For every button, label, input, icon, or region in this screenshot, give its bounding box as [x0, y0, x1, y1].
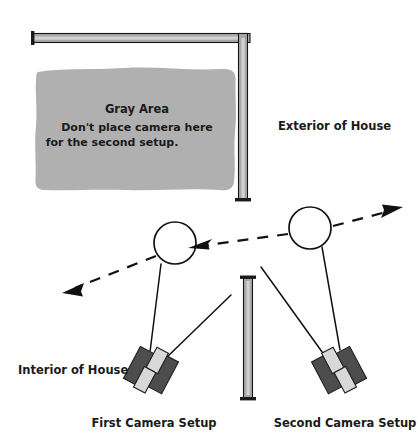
subject-right-circle — [289, 207, 331, 249]
floor-plan-svg: Gray Area Don't place camera here for th… — [0, 0, 418, 446]
sight-line-first-camera-to-left-subject — [150, 264, 161, 352]
label-interior-of-house: Interior of House — [18, 363, 128, 377]
interior-divider-bottom-cap — [240, 397, 256, 400]
interior-divider-top-cap — [240, 276, 256, 279]
interior-divider-wall-group — [240, 276, 256, 401]
gray-area-region: Gray Area Don't place camera here for th… — [35, 68, 236, 191]
light-direction-upper-right-line — [333, 211, 390, 226]
exterior-wall-bottom-cap — [235, 198, 251, 201]
label-first-camera-setup: First Camera Setup — [91, 416, 216, 430]
light-direction-upper-right-arrowhead — [381, 205, 403, 219]
sight-line-second-camera-to-divider — [261, 267, 325, 356]
interior-divider-wall-highlight — [247, 281, 250, 395]
light-direction-center-line — [200, 234, 288, 246]
exterior-wall-left-cap — [31, 31, 34, 45]
light-direction-left-line — [75, 256, 156, 288]
gray-area-title: Gray Area — [105, 102, 169, 116]
label-second-camera-setup: Second Camera Setup — [274, 416, 417, 430]
label-exterior-of-house: Exterior of House — [278, 119, 391, 133]
light-direction-left-arrowhead — [62, 283, 84, 297]
exterior-wall-vertical-highlight — [242, 38, 245, 198]
gray-area-line-1: Don't place camera here — [61, 121, 213, 134]
subject-left-circle — [154, 222, 196, 264]
light-arrows-group — [62, 205, 403, 297]
subjects-group — [154, 207, 331, 264]
sight-line-first-camera-to-divider — [166, 295, 231, 358]
diagram-canvas: Gray Area Don't place camera here for th… — [0, 0, 418, 446]
sight-line-second-camera-to-right-subject — [322, 247, 340, 350]
gray-area-line-2: for the second setup. — [46, 136, 179, 149]
exterior-wall-horizontal-highlight — [35, 37, 249, 40]
second-camera[interactable] — [310, 340, 368, 400]
